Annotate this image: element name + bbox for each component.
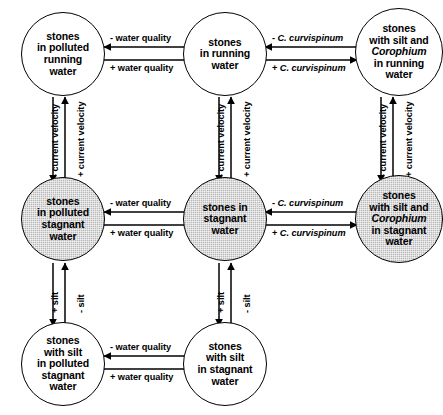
edge-label-polluted-current-velocity-minus: - current velocity xyxy=(50,104,60,177)
edge-label-stagnant-curvispinum-plus: + C. curvispinum xyxy=(272,228,346,238)
node-stones-with-silt-and-corophium-in-stagnant-water[interactable]: stones with silt and Corophium in stagna… xyxy=(355,175,443,263)
edge-label-running-curvispinum-minus: - C. curvispinum xyxy=(272,33,343,43)
edge-label-polluted-silt-minus: - silt xyxy=(76,294,86,313)
edge-label-running-curvispinum-plus: + C. curvispinum xyxy=(272,63,346,73)
node-label: stones in running water xyxy=(197,37,253,72)
node-stones-with-silt-and-corophium-in-running-water[interactable]: stones with silt and Corophium in runnin… xyxy=(355,8,443,96)
edge-label-clean-current-velocity-minus: - current velocity xyxy=(216,104,226,177)
node-stones-with-silt-in-stagnant-water[interactable]: stones with silt in stagnant water xyxy=(183,322,267,406)
corophium-genus-name: Corophium xyxy=(371,45,426,57)
edge-label-clean-current-velocity-plus: + current velocity xyxy=(242,102,252,177)
node-stones-with-silt-in-polluted-stagnant-water[interactable]: stones with silt in polluted stagnant wa… xyxy=(21,322,105,406)
node-stones-in-running-water[interactable]: stones in running water xyxy=(183,12,267,96)
node-label: stones with silt in stagnant water xyxy=(195,341,256,387)
edge-label-stagnant-water-quality-plus: + water quality xyxy=(110,228,173,238)
edge-label-clean-silt-minus: - silt xyxy=(242,294,252,313)
edge-label-running-water-quality-plus: + water quality xyxy=(110,63,173,73)
state-transition-diagram: stones in polluted running water stones … xyxy=(0,0,443,415)
edge-label-clean-silt-plus: + silt xyxy=(216,292,226,313)
edge-label-silt-current-velocity-plus: + current velocity xyxy=(404,102,414,177)
node-stones-in-polluted-stagnant-water[interactable]: stones in polluted stagnant water xyxy=(21,177,105,261)
node-stones-in-polluted-running-water[interactable]: stones in polluted running water xyxy=(21,12,105,96)
node-label: stones in polluted running water xyxy=(34,31,92,77)
edge-label-stagnant-water-quality-minus: - water quality xyxy=(110,198,171,208)
edge-label-silt-current-velocity-minus: - current velocity xyxy=(378,104,388,177)
node-label: stones with silt and Corophium in runnin… xyxy=(366,23,431,81)
node-label: stones with silt in polluted stagnant wa… xyxy=(34,335,92,393)
node-label: stones with silt and Corophium in stagna… xyxy=(366,190,431,248)
node-label: stones in polluted stagnant water xyxy=(34,196,92,242)
edge-label-running-water-quality-minus: - water quality xyxy=(110,33,171,43)
node-label: stones in stagnant water xyxy=(199,202,250,237)
node-stones-in-stagnant-water[interactable]: stones in stagnant water xyxy=(183,177,267,261)
corophium-genus-name: Corophium xyxy=(371,212,426,224)
edge-label-silted-water-quality-plus: + water quality xyxy=(110,372,173,382)
edge-label-stagnant-curvispinum-minus: - C. curvispinum xyxy=(272,198,343,208)
edge-label-silted-water-quality-minus: - water quality xyxy=(110,342,171,352)
edge-label-polluted-silt-plus: + silt xyxy=(50,292,60,313)
edge-label-polluted-current-velocity-plus: + current velocity xyxy=(76,102,86,177)
